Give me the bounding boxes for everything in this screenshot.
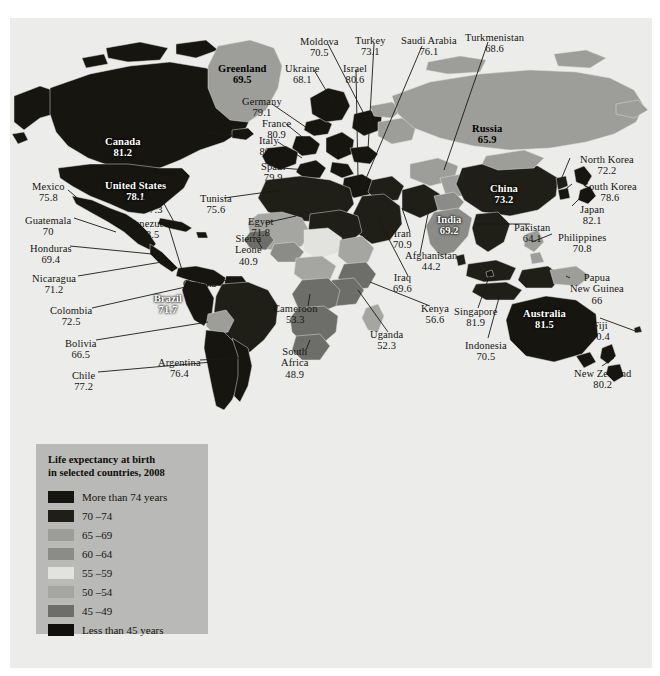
map-label-venezuela: Venezuela73.5 <box>128 218 172 241</box>
legend-row: 50 –54 <box>48 582 196 601</box>
label-value: 73.2 <box>490 194 518 205</box>
label-value: 70.5 <box>300 47 339 58</box>
map-label-papua-new-guinea: PapuaNew Guinea66 <box>570 272 624 306</box>
label-country-name: Cameroon <box>273 303 318 314</box>
map-label-philippines: Philippines70.8 <box>558 232 606 255</box>
map-figure: .c74 { fill:#16150f; } /* more than 74 *… <box>0 0 660 676</box>
legend-row: Less than 45 years <box>48 620 196 639</box>
label-value: 75.8 <box>32 192 65 203</box>
label-value: 66.4 <box>183 289 216 300</box>
label-country-name: Japan <box>580 204 604 215</box>
map-label-germany: Germany79.1 <box>242 96 282 119</box>
map-label-indonesia: Indonesia70.5 <box>465 340 507 363</box>
label-value: 65.9 <box>472 134 502 145</box>
legend-swatch <box>48 586 74 598</box>
map-label-turkey: Turkey73.1 <box>355 35 386 58</box>
legend-label: Less than 45 years <box>82 624 164 636</box>
label-country-name: Fiji <box>591 320 610 331</box>
label-value: 70.8 <box>558 243 606 254</box>
map-label-iceland: Iceland80.5 <box>174 128 206 151</box>
map-label-colombia: Colombia72.5 <box>50 305 92 328</box>
label-value: 44.2 <box>405 261 457 272</box>
label-value: 66.5 <box>65 349 97 360</box>
map-label-argentina: Argentina76.4 <box>158 357 201 380</box>
map-label-india: India69.2 <box>437 214 461 237</box>
label-country-name: Uganda <box>370 329 403 340</box>
label-value: 71.2 <box>32 284 76 295</box>
label-value: 76.1 <box>401 46 457 57</box>
legend-row: 60 –64 <box>48 544 196 563</box>
legend-label: 60 –64 <box>82 548 112 560</box>
legend-label: 65 –69 <box>82 529 112 541</box>
label-value: 56.6 <box>421 314 449 325</box>
label-value: Africa <box>281 357 308 368</box>
label-value: 48.9 <box>281 369 308 380</box>
label-value: 66 <box>570 295 624 306</box>
label-country-name: Russia <box>472 123 502 134</box>
label-value: 81.5 <box>523 319 566 330</box>
map-label-tunisia: Tunisia75.6 <box>200 193 232 216</box>
legend-label: 70 –74 <box>82 510 112 522</box>
label-country-name: Guatemala <box>25 215 71 226</box>
label-value: 82.1 <box>580 215 604 226</box>
label-country-name: Bolivia <box>65 338 97 349</box>
map-label-cuba: Cuba77.3 <box>142 193 165 216</box>
map-label-china: China73.2 <box>490 183 518 206</box>
map-label-mexico: Mexico75.8 <box>32 181 65 204</box>
map-label-canada: Canada81.2 <box>105 136 141 159</box>
map-label-south-korea: South Korea78.6 <box>583 181 637 204</box>
legend-title-line2: in selected countries, 2008 <box>48 467 196 480</box>
label-country-name: China <box>490 183 518 194</box>
legend-row: More than 74 years <box>48 487 196 506</box>
legend-row: 55 –59 <box>48 563 196 582</box>
label-value: 80.5 <box>174 139 206 150</box>
label-country-name: Argentina <box>158 357 201 368</box>
label-value: 64.1 <box>514 233 550 244</box>
map-label-australia: Australia81.5 <box>523 308 566 331</box>
label-value: 69.6 <box>393 283 412 294</box>
label-value: 75.6 <box>200 204 232 215</box>
label-country-name: Germany <box>242 96 282 107</box>
label-country-name: Iran <box>393 228 412 239</box>
label-value: 81.2 <box>105 147 141 158</box>
label-value: 80.6 <box>343 74 367 85</box>
label-country-name: South Korea <box>583 181 637 192</box>
label-country-name: Spain <box>261 161 285 172</box>
legend-label: 55 –59 <box>82 567 112 579</box>
label-value: 69.4 <box>30 254 72 265</box>
map-label-brazil: Brazil71.7 <box>154 293 182 316</box>
label-value: 68.6 <box>465 43 524 54</box>
label-country-name: South <box>281 346 308 357</box>
label-country-name: Indonesia <box>465 340 507 351</box>
label-country-name: Ukraine <box>285 63 320 74</box>
legend-swatch <box>48 605 74 617</box>
legend-title-line1: Life expectancy at birth <box>48 454 196 467</box>
label-value: 72.5 <box>50 316 92 327</box>
label-value: 73.1 <box>355 46 386 57</box>
label-value: 70 <box>25 226 71 237</box>
label-value: 76.4 <box>158 368 201 379</box>
legend-swatch <box>48 510 74 522</box>
map-label-moldova: Moldova70.5 <box>300 36 339 59</box>
label-country-name: Singapore <box>454 306 497 317</box>
label-country-name: United States <box>105 180 166 191</box>
legend-swatch <box>48 548 74 560</box>
label-country-name: Brazil <box>154 293 182 304</box>
map-label-chile: Chile77.2 <box>72 370 95 393</box>
legend-label: 50 –54 <box>82 586 112 598</box>
map-label-kenya: Kenya56.6 <box>421 303 449 326</box>
map-label-uganda: Uganda52.3 <box>370 329 403 352</box>
map-label-new-zealand: New Zealand80.2 <box>574 368 631 391</box>
label-value: 69.2 <box>437 225 461 236</box>
label-country-name: Mexico <box>32 181 65 192</box>
label-country-name: Iceland <box>174 128 206 139</box>
legend-swatch <box>48 491 74 503</box>
map-legend: Life expectancy at birth in selected cou… <box>36 444 208 634</box>
legend-entries: More than 74 years70 –7465 –6960 –6455 –… <box>48 487 196 639</box>
map-label-russia: Russia65.9 <box>472 123 502 146</box>
label-country-name: Pakistan <box>514 222 550 233</box>
label-country-name: Saudi Arabia <box>401 35 457 46</box>
map-label-guyana: Guyana66.4 <box>183 278 216 301</box>
map-label-saudi-arabia: Saudi Arabia76.1 <box>401 35 457 58</box>
label-value: 73.5 <box>128 229 172 240</box>
